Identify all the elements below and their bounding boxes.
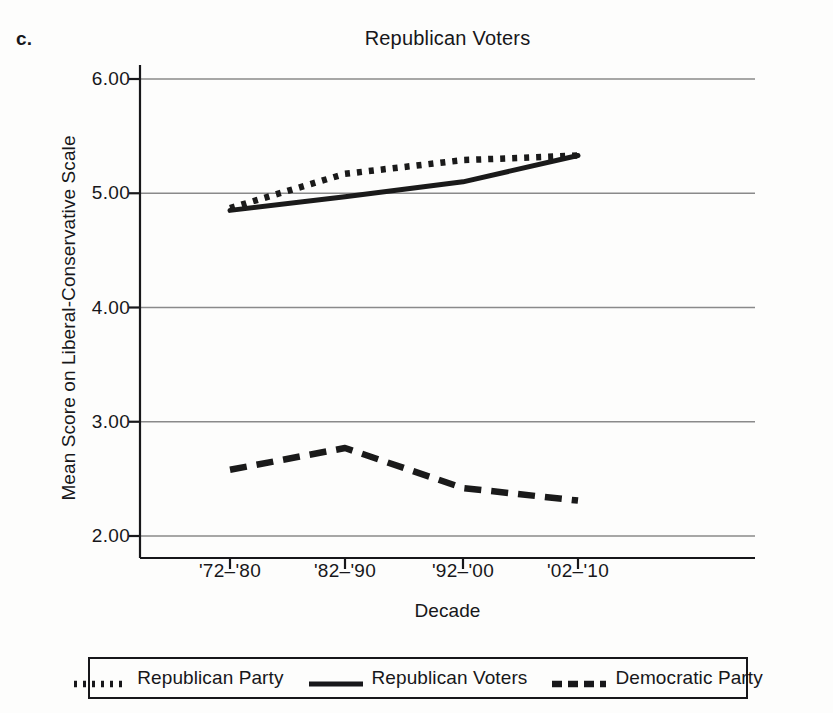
legend-swatch-dashed-icon xyxy=(551,674,607,682)
legend-item[interactable]: Republican Voters xyxy=(308,667,528,689)
legend-item[interactable]: Democratic Party xyxy=(551,667,762,689)
figure-panel: c. Republican Voters Mean Score on Liber… xyxy=(0,0,833,713)
legend-label: Democratic Party xyxy=(615,667,762,689)
legend-label: Republican Voters xyxy=(372,667,528,689)
series-line-0 xyxy=(230,156,578,209)
legend-label: Republican Party xyxy=(137,667,283,689)
legend-swatch-dotted-icon xyxy=(73,674,129,682)
series-line-2 xyxy=(230,448,578,501)
chart-legend: Republican PartyRepublican VotersDemocra… xyxy=(88,657,748,699)
plot-area xyxy=(0,0,833,713)
series-line-1 xyxy=(230,156,578,211)
legend-swatch-solid-icon xyxy=(308,674,364,682)
legend-item[interactable]: Republican Party xyxy=(73,667,283,689)
